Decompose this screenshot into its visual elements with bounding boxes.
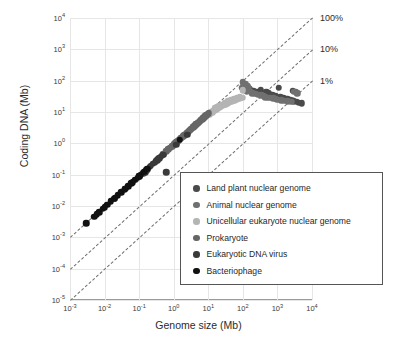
legend-item[interactable]: Bacteriophage: [189, 263, 374, 280]
data-point: [276, 84, 283, 91]
data-point: [203, 112, 210, 119]
y-tick-label: 10-2: [38, 202, 65, 211]
y-axis-title: Coding DNA (Mb): [18, 56, 30, 196]
gridline-vertical: [139, 18, 140, 300]
x-tick-label: 10-3: [63, 304, 76, 313]
data-point: [235, 95, 242, 102]
reference-line-label: 1%: [320, 76, 333, 86]
y-tick-label: 10-3: [38, 233, 65, 242]
y-tick-label: 104: [38, 14, 65, 23]
y-tick-label: 10-4: [38, 264, 65, 273]
y-tick-label: 10-1: [38, 170, 65, 179]
legend-item[interactable]: Unicellular eukaryote nuclear genome: [189, 213, 374, 230]
gridline-vertical: [174, 18, 175, 300]
y-tick-label: 101: [38, 108, 65, 117]
y-tick-label: 102: [38, 76, 65, 85]
data-point: [240, 87, 247, 94]
chart-legend: Land plant nuclear genomeAnimal nuclear …: [180, 172, 383, 285]
gridline-horizontal: [70, 300, 312, 301]
x-tick-label: 10-2: [98, 304, 111, 313]
x-tick-label: 102: [237, 304, 248, 313]
x-tick-label: 104: [306, 304, 317, 313]
legend-item[interactable]: Animal nuclear genome: [189, 197, 374, 214]
x-tick-label: 10-1: [132, 304, 145, 313]
data-point: [184, 131, 191, 138]
legend-label: Land plant nuclear genome: [207, 183, 311, 193]
x-tick-label: 101: [203, 304, 214, 313]
data-point: [101, 204, 108, 211]
data-point: [294, 90, 301, 97]
legend-marker-icon: [193, 251, 200, 258]
x-tick-label: 103: [272, 304, 283, 313]
legend-item[interactable]: Land plant nuclear genome: [189, 180, 374, 197]
data-point: [112, 195, 119, 202]
legend-label: Animal nuclear genome: [207, 200, 297, 210]
x-axis-title: Genome size (Mb): [0, 319, 397, 331]
gridline-horizontal: [70, 143, 312, 144]
legend-label: Unicellular eukaryote nuclear genome: [207, 216, 351, 226]
data-point: [83, 220, 90, 227]
legend-marker-icon: [193, 185, 200, 192]
legend-marker-icon: [193, 202, 200, 209]
legend-marker-icon: [193, 268, 200, 275]
gridline-horizontal: [70, 18, 312, 19]
gridline-horizontal: [70, 81, 312, 82]
legend-label: Prokaryote: [207, 233, 249, 243]
legend-item[interactable]: Eukaryotic DNA virus: [189, 246, 374, 263]
data-point: [136, 173, 143, 180]
reference-line-label: 10%: [320, 44, 338, 54]
legend-item[interactable]: Prokaryote: [189, 230, 374, 247]
gridline-horizontal: [70, 112, 312, 113]
y-tick-label: 100: [38, 139, 65, 148]
legend-label: Bacteriophage: [207, 266, 262, 276]
data-point: [156, 155, 163, 162]
data-point: [288, 99, 295, 106]
data-point: [94, 211, 101, 218]
data-point: [298, 100, 305, 107]
data-point: [177, 137, 184, 144]
legend-label: Eukaryotic DNA virus: [207, 249, 288, 259]
data-point: [122, 185, 129, 192]
scatter-plot-figure: 10-310-210-1100101102103104 10-510-410-3…: [0, 0, 397, 343]
gridline-vertical: [70, 18, 71, 300]
gridline-horizontal: [70, 49, 312, 50]
legend-marker-icon: [193, 235, 200, 242]
legend-marker-icon: [193, 218, 200, 225]
data-point: [163, 169, 170, 176]
data-point: [144, 166, 151, 173]
data-point: [129, 179, 136, 186]
y-tick-label: 103: [38, 45, 65, 54]
gridline-vertical: [105, 18, 106, 300]
x-tick-label: 100: [168, 304, 179, 313]
y-tick-label: 10-5: [38, 296, 65, 305]
reference-line-label: 100%: [320, 13, 343, 23]
